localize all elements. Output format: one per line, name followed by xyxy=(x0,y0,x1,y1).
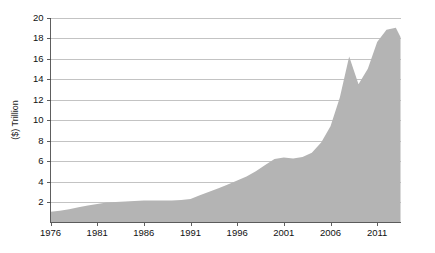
chart-container: 2468101214161820 19761981198619911996200… xyxy=(0,0,435,253)
y-tick-labels-group: 2468101214161820 xyxy=(33,12,44,208)
x-tick-label-1981: 1981 xyxy=(87,227,108,238)
y-tick-label-6: 6 xyxy=(38,155,43,166)
y-tick-label-4: 4 xyxy=(38,176,43,187)
y-tick-label-20: 20 xyxy=(33,12,44,23)
y-tick-label-2: 2 xyxy=(38,196,43,207)
y-tick-label-12: 12 xyxy=(33,94,44,105)
y-tick-label-16: 16 xyxy=(33,53,44,64)
data-area-group xyxy=(51,28,401,223)
x-tick-label-1986: 1986 xyxy=(133,227,154,238)
area-series-path xyxy=(51,28,401,223)
area-chart: 2468101214161820 19761981198619911996200… xyxy=(0,0,435,253)
x-tick-label-1991: 1991 xyxy=(180,227,201,238)
x-tick-marks-group xyxy=(52,223,378,227)
x-tick-labels-group: 19761981198619911996200120062011 xyxy=(40,227,387,238)
y-tick-label-14: 14 xyxy=(33,73,44,84)
y-tick-marks-group xyxy=(47,19,51,203)
y-tick-label-8: 8 xyxy=(38,135,43,146)
x-tick-label-2001: 2001 xyxy=(273,227,294,238)
y-axis-title: ($) Trillion xyxy=(10,100,20,140)
y-tick-label-18: 18 xyxy=(33,32,44,43)
y-tick-label-10: 10 xyxy=(33,114,44,125)
x-tick-label-1996: 1996 xyxy=(227,227,248,238)
x-tick-label-1976: 1976 xyxy=(40,227,61,238)
x-tick-label-2011: 2011 xyxy=(367,227,387,238)
x-tick-label-2006: 2006 xyxy=(320,227,341,238)
